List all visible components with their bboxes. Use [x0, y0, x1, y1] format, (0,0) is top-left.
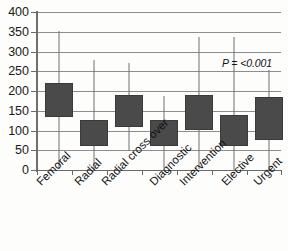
box-iqr: [45, 83, 73, 117]
box-series-femoral: [45, 12, 73, 170]
y-tick-mark: [31, 71, 37, 72]
y-axis-label-300: 300: [0, 46, 29, 59]
p-value-annotation: P = <0.001: [222, 57, 272, 69]
x-tick-mark: [142, 170, 143, 175]
x-tick-mark: [247, 170, 248, 175]
whisker-upper: [234, 37, 235, 117]
y-tick-mark: [31, 32, 37, 33]
y-tick-mark: [31, 52, 37, 53]
y-axis-label-250: 250: [0, 65, 29, 78]
y-axis-label-150: 150: [0, 105, 29, 118]
y-axis-label-100: 100: [0, 125, 29, 138]
y-axis-label-50: 50: [0, 144, 29, 157]
box-iqr: [80, 120, 108, 146]
y-tick-mark: [31, 111, 37, 112]
y-axis-label-0: 0: [0, 164, 29, 177]
box-plot-figure: 400 350 300 250 200 150 100 50 0 Femoral…: [0, 0, 288, 251]
y-tick-mark: [31, 150, 37, 151]
y-tick-mark: [31, 131, 37, 132]
whisker-upper: [269, 70, 270, 99]
box-iqr: [185, 95, 213, 130]
x-tick-mark: [72, 170, 73, 175]
y-axis-label-350: 350: [0, 26, 29, 39]
x-tick-mark: [212, 170, 213, 175]
x-tick-mark: [177, 170, 178, 175]
box-iqr: [115, 95, 143, 127]
y-axis-label-200: 200: [0, 85, 29, 98]
y-tick-mark: [31, 12, 37, 13]
plot-area: [37, 12, 281, 170]
y-tick-mark: [31, 91, 37, 92]
box-series-diagnostic: [150, 12, 178, 170]
box-series-radial: [80, 12, 108, 170]
box-series-urgent: [255, 12, 283, 170]
x-tick-mark: [281, 170, 282, 175]
box-iqr: [255, 97, 283, 140]
y-axis-label-400: 400: [0, 6, 29, 19]
whisker-upper: [94, 60, 95, 129]
